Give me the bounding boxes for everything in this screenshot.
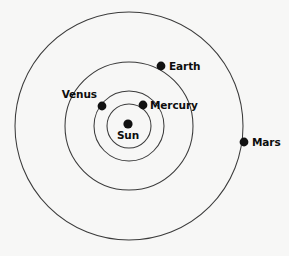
mercury-dot bbox=[139, 101, 148, 110]
venus-dot bbox=[98, 102, 107, 111]
sun-label: Sun bbox=[117, 129, 139, 141]
sun-dot bbox=[123, 119, 132, 128]
mars-label: Mars bbox=[252, 136, 281, 148]
orbit-diagram-canvas: Sun Mercury Venus Earth Mars bbox=[0, 0, 289, 256]
earth-dot bbox=[157, 62, 166, 71]
solar-system-diagram: Sun Mercury Venus Earth Mars bbox=[0, 0, 289, 256]
earth-label: Earth bbox=[169, 60, 200, 72]
mercury-label: Mercury bbox=[150, 99, 198, 111]
venus-label: Venus bbox=[62, 88, 97, 100]
mars-dot bbox=[240, 138, 249, 147]
